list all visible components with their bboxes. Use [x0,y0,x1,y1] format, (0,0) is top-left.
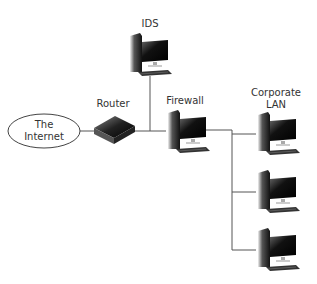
ids-computer-icon [130,33,172,76]
internet-label-line1: The [12,119,76,131]
router-icon [94,116,135,144]
ids-label: IDS [130,18,170,30]
corporate-lan-label: Corporate LAN [246,87,306,111]
lan-computer-icon [258,112,300,155]
firewall-computer-icon [168,110,210,153]
lan-label-line1: Corporate [246,87,306,99]
firewall-label: Firewall [160,95,210,107]
lan-label-line2: LAN [246,99,306,111]
internet-label-line2: Internet [12,131,76,143]
lan-computer-icon [258,228,300,271]
internet-label: The Internet [12,119,76,143]
router-label: Router [90,98,136,110]
lan-computer-icon [258,170,300,213]
